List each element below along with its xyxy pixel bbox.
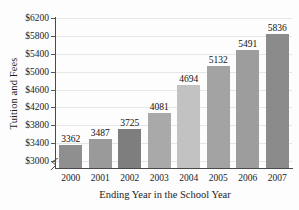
y-axis-tick-label: $5400 — [25, 49, 49, 59]
bar[interactable] — [207, 66, 230, 168]
y-axis-tick-label: $3000 — [25, 156, 49, 166]
bar[interactable] — [236, 50, 259, 168]
y-axis-tick-label: $5000 — [25, 67, 49, 77]
y-axis-tick-label: $4600 — [25, 85, 49, 95]
x-axis-tick-label: 2006 — [233, 173, 263, 183]
bars-container: 33623487372540814694513254915836 — [56, 18, 292, 168]
y-axis-tick-label: $4200 — [25, 102, 49, 112]
x-axis-tick-label: 2005 — [204, 173, 234, 183]
bar-slot: 4694 — [174, 18, 204, 168]
bar-slot: 5836 — [263, 18, 293, 168]
y-axis-tick-label: $5800 — [25, 31, 49, 41]
bar-value-label: 5836 — [268, 23, 287, 33]
x-axis-line — [55, 168, 293, 169]
bar-value-label: 3487 — [91, 128, 110, 138]
bar-slot: 5491 — [233, 18, 263, 168]
tuition-bar-chart: Tuition and Fees $3000$3400$3800$4200$46… — [0, 0, 299, 210]
bar-value-label: 3362 — [61, 134, 80, 144]
bar-value-label: 4081 — [150, 102, 169, 112]
bar[interactable] — [118, 129, 141, 168]
x-axis-tick-label: 2000 — [56, 173, 86, 183]
bar[interactable] — [59, 145, 82, 168]
y-axis-tick-label: $6200 — [25, 13, 49, 23]
bar[interactable] — [148, 113, 171, 168]
x-axis-tick-label: 2003 — [145, 173, 175, 183]
x-axis-tick-label: 2002 — [115, 173, 145, 183]
bar-value-label: 5132 — [209, 55, 228, 65]
bar-slot: 3362 — [56, 18, 86, 168]
y-axis-tick-label: $3800 — [25, 120, 49, 130]
bar-value-label: 5491 — [238, 39, 257, 49]
x-axis-tick-label: 2004 — [174, 173, 204, 183]
bar-slot: 4081 — [145, 18, 175, 168]
x-axis-tick-label: 2007 — [263, 173, 293, 183]
x-axis-title: Ending Year in the School Year — [40, 189, 290, 200]
bar-value-label: 3725 — [120, 118, 139, 128]
bar[interactable] — [89, 139, 112, 168]
bar-value-label: 4694 — [179, 74, 198, 84]
bar-slot: 3725 — [115, 18, 145, 168]
bar-slot: 5132 — [204, 18, 234, 168]
y-axis-tick-label: $3400 — [25, 138, 49, 148]
y-axis-title: Tuition and Fees — [8, 29, 19, 159]
bar[interactable] — [266, 34, 289, 168]
bar[interactable] — [177, 85, 200, 168]
x-axis-tick-label: 2001 — [86, 173, 116, 183]
bar-slot: 3487 — [86, 18, 116, 168]
